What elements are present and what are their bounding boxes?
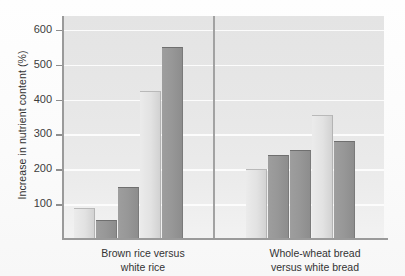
bar-group2-item4 [312, 115, 333, 239]
y-tick-label-400: 400 [0, 93, 52, 105]
x-label-line1: Brown rice versus [78, 246, 208, 260]
bar-group2-item2 [268, 155, 289, 239]
y-tick-label-200: 200 [0, 162, 52, 174]
y-tick-label-300: 300 [0, 127, 52, 139]
bar-chart-figure: Increase in nutrient content (%) 1002003… [0, 0, 405, 276]
group-separator [213, 16, 215, 239]
bar-group2-item3 [290, 150, 311, 239]
x-axis-group-label-brown-rice: Brown rice versus white rice [78, 246, 208, 274]
bar-group1-item2 [96, 220, 117, 239]
gridline-500 [64, 65, 384, 67]
y-axis-title: Increase in nutrient content (%) [16, 25, 28, 225]
bar-group1-item1 [74, 208, 95, 239]
gridline-300 [64, 134, 384, 136]
y-tick-label-500: 500 [0, 58, 52, 70]
y-tick-label-100: 100 [0, 197, 52, 209]
plot-area [62, 16, 384, 239]
bar-group2-item1 [246, 169, 267, 239]
y-tick-label-600: 600 [0, 23, 52, 35]
x-label-line2: versus white bread [245, 260, 385, 274]
bar-group1-item4 [140, 91, 161, 239]
gridline-600 [64, 30, 384, 32]
gridline-400 [64, 100, 384, 102]
y-axis-line [62, 16, 64, 240]
x-label-line2: white rice [78, 260, 208, 274]
bar-group1-item5 [162, 47, 183, 239]
bar-group2-item5 [334, 141, 355, 239]
x-axis-line [62, 238, 388, 240]
x-axis-group-label-whole-wheat: Whole-wheat bread versus white bread [245, 246, 385, 274]
x-label-line1: Whole-wheat bread [245, 246, 385, 260]
bar-group1-item3 [118, 187, 139, 239]
